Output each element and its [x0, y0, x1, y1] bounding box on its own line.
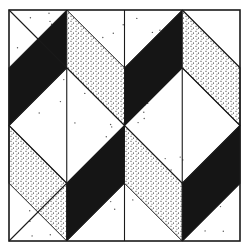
quilt-pattern-figure [0, 0, 247, 252]
